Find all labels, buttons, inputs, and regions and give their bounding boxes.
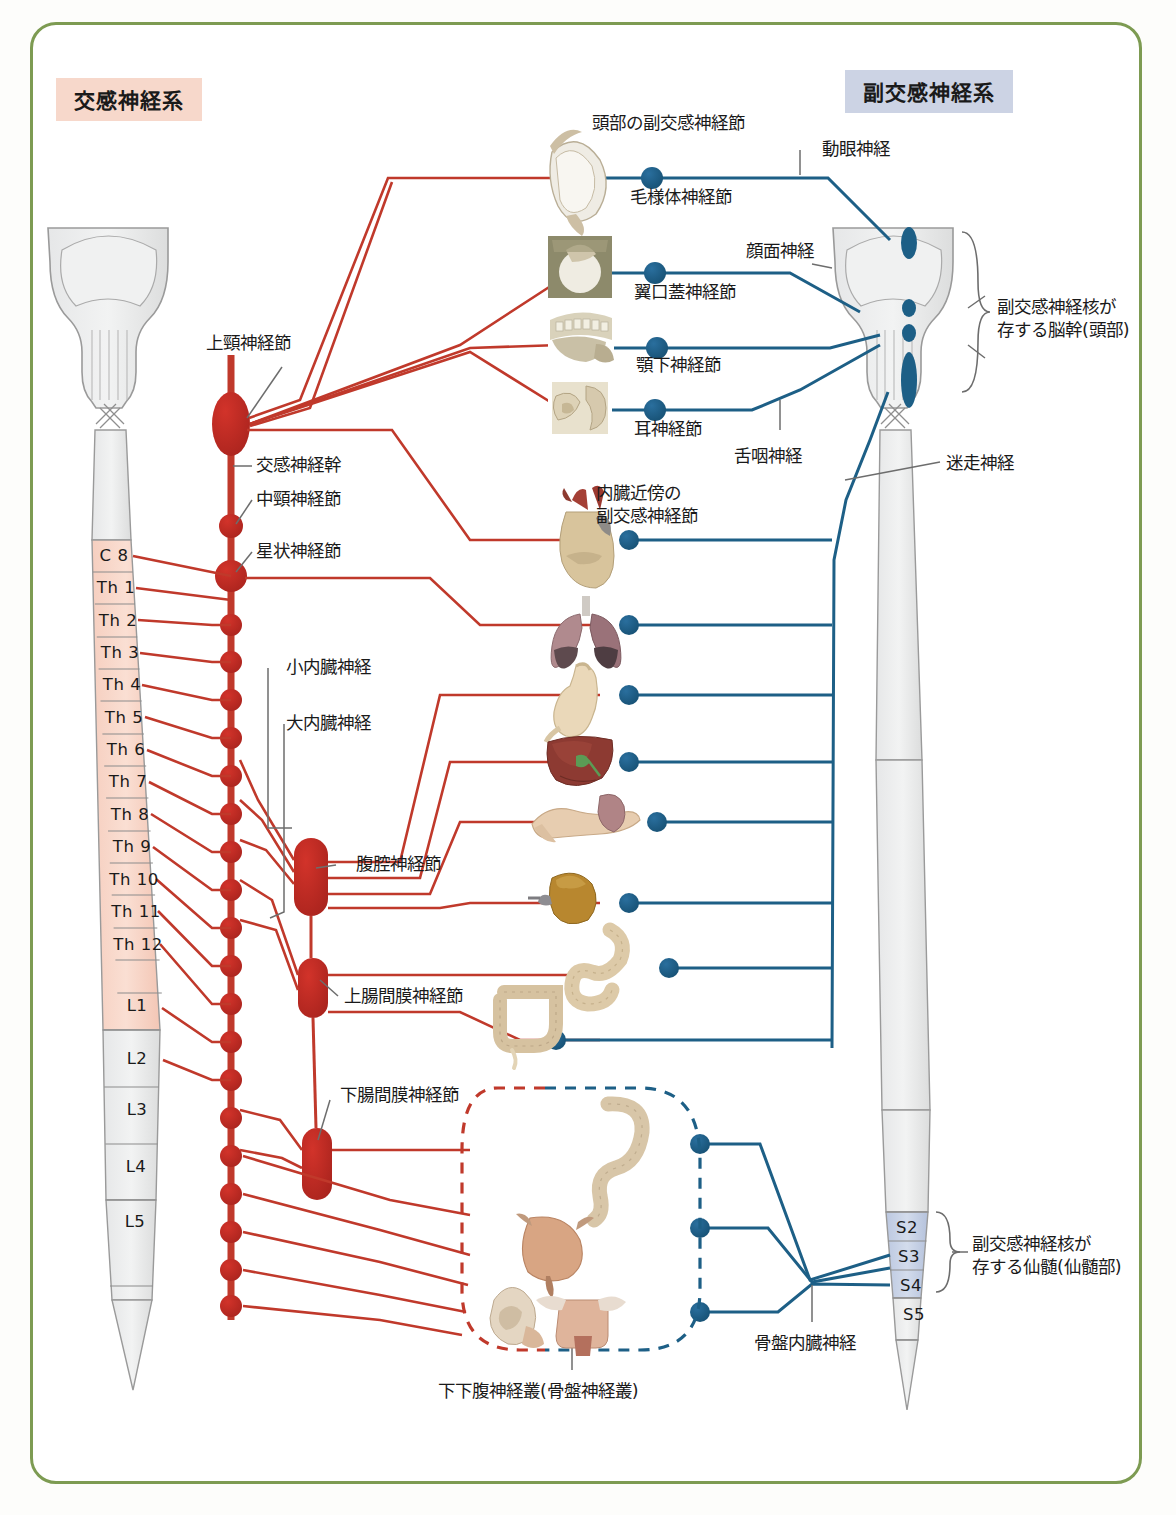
label-greater-splanchnic-nerve: 大内臓神経 xyxy=(286,712,371,735)
label-otic-ganglion: 耳神経節 xyxy=(634,418,702,441)
segment-label-th7: Th 7 xyxy=(105,772,151,791)
label-stellate-ganglion: 星状神経節 xyxy=(256,540,341,563)
segment-label-l3: L3 xyxy=(112,1100,162,1119)
segment-label-th2: Th 2 xyxy=(95,611,141,630)
segment-label-l1: L1 xyxy=(112,996,162,1015)
sympathetic-header: 交感神経系 xyxy=(56,78,202,121)
segment-label-th3: Th 3 xyxy=(97,643,143,662)
segment-label-s2: S2 xyxy=(884,1218,930,1237)
label-brainstem-parasympathetic-nuclei: 副交感神経核が 存する脳幹(頭部) xyxy=(997,296,1130,342)
label-visceral-parasympathetic-ganglia: 内臓近傍の 副交感神経節 xyxy=(596,482,698,528)
segment-label-l4: L4 xyxy=(111,1157,161,1176)
segment-label-th8: Th 8 xyxy=(107,805,153,824)
label-oculomotor-nerve: 動眼神経 xyxy=(822,138,890,161)
segment-label-s4: S4 xyxy=(888,1276,934,1295)
label-sympathetic-trunk: 交感神経幹 xyxy=(256,454,341,477)
segment-label-th9: Th 9 xyxy=(109,837,155,856)
label-head-parasympathetic-ganglia: 頭部の副交感神経節 xyxy=(592,112,745,135)
label-sacral-parasympathetic-nuclei: 副交感神経核が 存する仙髄(仙髄部) xyxy=(972,1233,1122,1279)
label-inferior-hypogastric-plexus: 下下腹神経叢(骨盤神経叢) xyxy=(438,1380,639,1403)
segment-label-th11: Th 11 xyxy=(108,902,164,921)
segment-label-th12: Th 12 xyxy=(110,935,166,954)
segment-label-s5: S5 xyxy=(891,1305,937,1324)
segment-label-s3: S3 xyxy=(886,1247,932,1266)
label-facial-nerve: 顔面神経 xyxy=(746,240,814,263)
label-inferior-mesenteric-ganglion: 下腸間膜神経節 xyxy=(340,1084,459,1107)
label-vagus-nerve: 迷走神経 xyxy=(946,452,1014,475)
label-ciliary-ganglion: 毛様体神経節 xyxy=(630,186,732,209)
parasympathetic-header: 副交感神経系 xyxy=(845,70,1013,113)
label-glossopharyngeal-nerve: 舌咽神経 xyxy=(734,445,802,468)
label-pterygopalatine-ganglion: 翼口蓋神経節 xyxy=(634,281,736,304)
label-celiac-ganglion: 腹腔神経節 xyxy=(356,853,441,876)
segment-label-l5: L5 xyxy=(110,1212,160,1231)
segment-label-l2: L2 xyxy=(112,1049,162,1068)
segment-label-th5: Th 5 xyxy=(101,708,147,727)
label-superior-mesenteric-ganglion: 上腸間膜神経節 xyxy=(344,985,463,1008)
label-middle-cervical-ganglion: 中頸神経節 xyxy=(256,488,341,511)
segment-label-th1: Th 1 xyxy=(93,578,139,597)
segment-label-th10: Th 10 xyxy=(106,870,162,889)
segment-label-th4: Th 4 xyxy=(99,675,145,694)
label-pelvic-splanchnic-nerve: 骨盤内臓神経 xyxy=(754,1332,856,1355)
segment-label-c8: C 8 xyxy=(92,546,136,565)
label-submandibular-ganglion: 顎下神経節 xyxy=(636,354,721,377)
segment-label-th6: Th 6 xyxy=(103,740,149,759)
diagram-canvas: 交感神経系 副交感神経系 C 8 Th 1 Th 2 Th 3 Th 4 Th … xyxy=(0,0,1176,1515)
label-lesser-splanchnic-nerve: 小内臓神経 xyxy=(286,656,371,679)
label-superior-cervical-ganglion: 上頸神経節 xyxy=(206,332,291,355)
